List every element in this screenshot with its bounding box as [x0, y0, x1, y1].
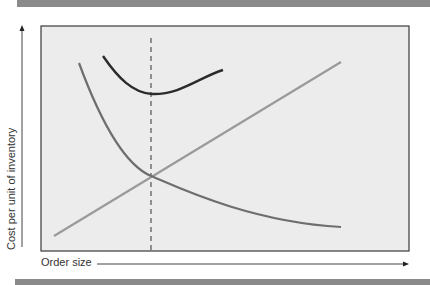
y-axis-label-text: Cost per unit of inventory: [4, 128, 18, 250]
x-axis-label: Order size: [41, 256, 92, 268]
plot-area: [41, 26, 409, 251]
y-axis-arrowhead-icon: [20, 25, 25, 31]
cost-curve-chart: [0, 0, 430, 285]
y-axis-label: Cost per unit of inventory: [4, 60, 18, 250]
bottom-decorative-bar: [15, 279, 430, 285]
x-axis-arrowhead-icon: [403, 262, 409, 267]
